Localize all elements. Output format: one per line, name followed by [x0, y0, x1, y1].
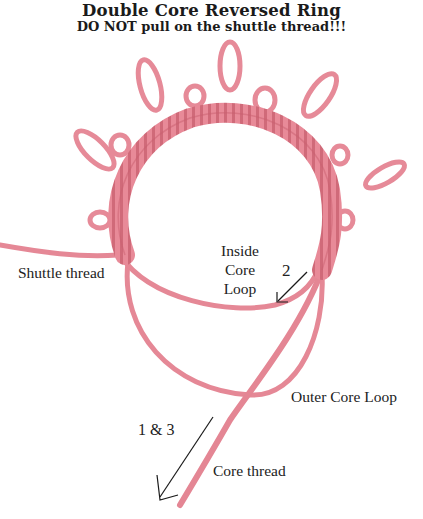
- label-step-1-3: 1 & 3: [138, 420, 174, 439]
- label-shuttle-thread: Shuttle thread: [18, 263, 105, 282]
- label-core-thread: Core thread: [213, 461, 286, 480]
- label-outer-core-loop: Outer Core Loop: [291, 387, 397, 406]
- label-inside-core-loop: Inside Core Loop: [210, 241, 270, 298]
- label-step-2: 2: [282, 261, 291, 280]
- shuttle-thread: [0, 245, 118, 256]
